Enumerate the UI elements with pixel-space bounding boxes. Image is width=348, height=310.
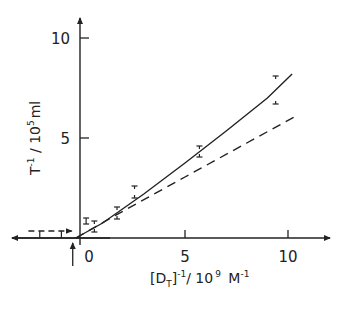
x-tick-label: 5 (180, 248, 190, 266)
series-line (76, 117, 294, 238)
chart-canvas: 510 0510 T-1 / 105ml [DT]-1/ 109 M-1 (0, 0, 348, 310)
plot-series (28, 74, 294, 238)
y-axis-ticks: 510 (51, 30, 89, 148)
y-axis-label: T-1 / 105ml (26, 101, 43, 176)
y-tick-label: 10 (51, 30, 70, 48)
x-tick-label: 10 (278, 248, 297, 266)
data-points (83, 76, 279, 232)
y-tick-label: 5 (60, 130, 70, 148)
x-axis-label: [DT]-1/ 109 M-1 (150, 269, 249, 289)
series-line (76, 74, 292, 238)
x-axis-ticks: 0510 (84, 230, 297, 266)
data-point (83, 218, 89, 224)
data-point (132, 186, 138, 198)
x-tick-label: 0 (84, 248, 94, 266)
annotations (40, 231, 73, 266)
